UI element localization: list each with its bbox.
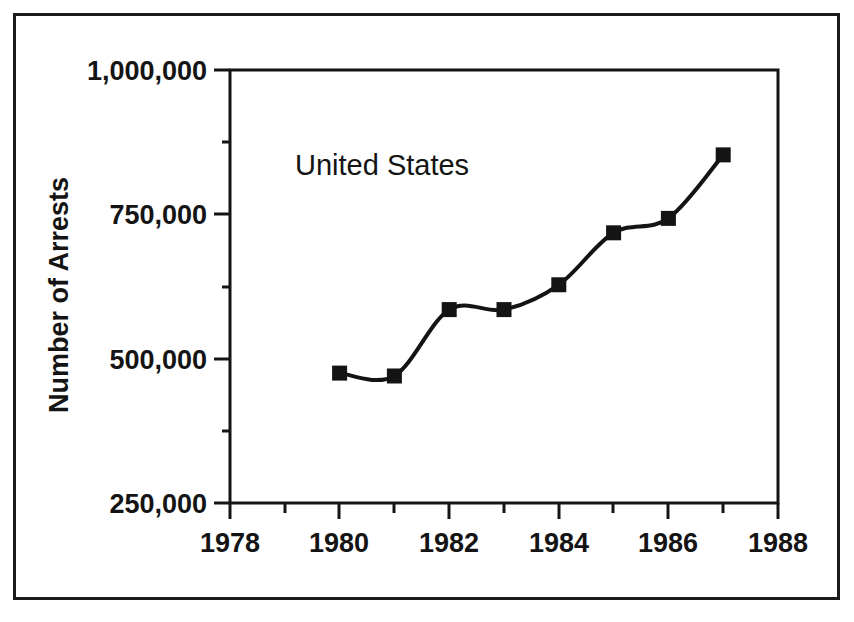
chart-page: 1,000,000 750,000 500,000 250,000 1978 1…	[0, 0, 854, 622]
x-tick-label-1978: 1978	[200, 528, 260, 558]
data-point-1985	[606, 225, 621, 240]
plot-area-border	[230, 70, 778, 503]
x-tick-label-1982: 1982	[419, 528, 479, 558]
series-annotation-united-states: United States	[295, 149, 469, 181]
y-tick-label-250000: 250,000	[109, 489, 207, 519]
line-chart: 1,000,000 750,000 500,000 250,000 1978 1…	[0, 0, 854, 622]
data-point-1987	[716, 147, 731, 162]
data-point-1982	[442, 302, 457, 317]
data-point-1983	[497, 302, 512, 317]
x-tick-label-1984: 1984	[529, 528, 589, 558]
x-tick-label-1986: 1986	[638, 528, 698, 558]
x-tick-label-1988: 1988	[748, 528, 808, 558]
y-tick-label-1000000: 1,000,000	[87, 56, 207, 86]
x-tick-label-1980: 1980	[309, 528, 369, 558]
data-point-1980	[332, 366, 347, 381]
plot-area	[230, 70, 778, 503]
y-tick-label-500000: 500,000	[109, 345, 207, 375]
y-tick-label-750000: 750,000	[109, 200, 207, 230]
data-point-1984	[551, 277, 566, 292]
chart-svg: 1,000,000 750,000 500,000 250,000 1978 1…	[0, 0, 854, 622]
data-point-1981	[387, 368, 402, 383]
data-point-1986	[661, 211, 676, 226]
y-axis-title: Number of Arrests	[44, 177, 74, 413]
